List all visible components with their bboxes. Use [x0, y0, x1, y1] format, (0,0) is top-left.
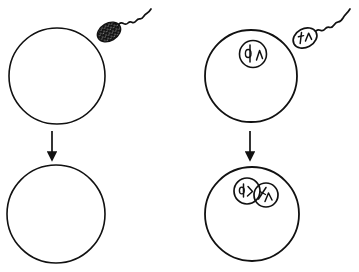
egg-cell-outline — [205, 30, 297, 122]
sperm-solid — [94, 9, 151, 46]
panel-top-right — [205, 9, 350, 122]
sperm-chromosome-rod — [300, 33, 301, 44]
sperm-chromosome-lambda — [306, 33, 312, 41]
nucleus-membrane — [240, 41, 267, 68]
sperm-chromosome-rod-bar — [298, 36, 303, 37]
chromosome-check — [248, 187, 253, 197]
panel-top-left — [9, 9, 151, 124]
sperm-tail-wavy-icon — [316, 9, 350, 31]
sperm-head-outline-icon — [290, 24, 321, 52]
zygote-cell-stippled — [7, 165, 105, 263]
egg-nucleus — [240, 41, 267, 68]
sperm-tail-wavy-icon — [119, 9, 151, 24]
sperm-outlined — [290, 9, 350, 52]
zygote-cell-outline — [205, 167, 299, 261]
egg-cell-stippled — [9, 28, 105, 124]
panel-bottom-left — [7, 165, 105, 263]
sperm-head-solid-icon — [94, 18, 124, 46]
chromosome-lambda — [257, 51, 263, 61]
fertilization-figure — [0, 0, 359, 272]
pronucleus-paternal — [254, 183, 278, 207]
figure-canvas — [0, 0, 359, 272]
fused-pronuclei — [234, 178, 278, 207]
pronucleus-maternal — [234, 178, 260, 204]
panel-bottom-right — [205, 167, 299, 261]
transition-arrows — [52, 131, 250, 160]
